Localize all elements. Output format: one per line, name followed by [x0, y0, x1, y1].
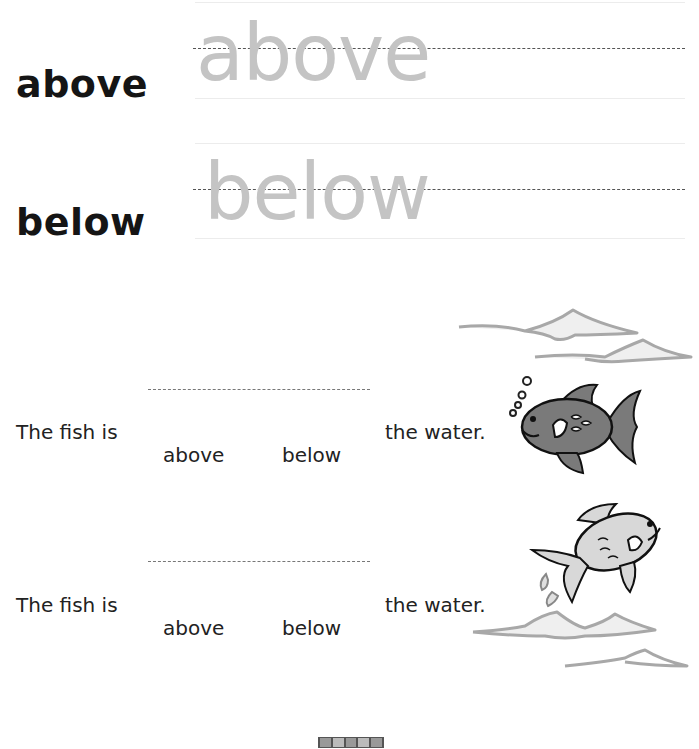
trace-word-below[interactable]: below: [204, 153, 430, 231]
stamp-block: [333, 738, 344, 747]
guide-top-line-2: [195, 143, 685, 144]
water-waves-icon: [455, 305, 695, 365]
guide-base-line-1: [195, 98, 685, 99]
trace-word-above[interactable]: above: [196, 14, 430, 92]
answer-line-1[interactable]: [148, 389, 370, 390]
sentence-2-prefix: The fish is: [16, 593, 118, 617]
stamp-block: [358, 738, 369, 747]
fish-underwater-icon: [505, 375, 645, 480]
publisher-logo-stamp: [318, 737, 384, 748]
choice-above-2[interactable]: above: [163, 616, 224, 640]
choice-below-2[interactable]: below: [282, 616, 341, 640]
stamp-block: [371, 738, 382, 747]
guide-base-line-2: [195, 238, 685, 239]
word-below-label: below: [16, 200, 146, 244]
water-waves-bottom-icon: [465, 610, 695, 675]
guide-top-line-1: [195, 2, 685, 3]
answer-line-2[interactable]: [148, 561, 370, 562]
sentence-1-prefix: The fish is: [16, 420, 118, 444]
word-above-label: above: [16, 62, 148, 106]
choice-below-1[interactable]: below: [282, 443, 341, 467]
stamp-block: [320, 738, 331, 747]
water-splash-icon: [536, 570, 566, 610]
sentence-1-suffix: the water.: [385, 420, 486, 444]
stamp-block: [346, 738, 357, 747]
choice-above-1[interactable]: above: [163, 443, 224, 467]
